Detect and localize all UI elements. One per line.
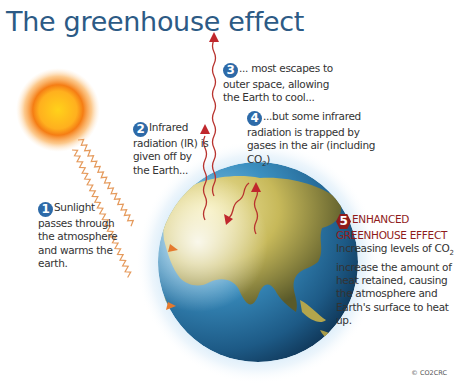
copyright-notice: © CO2CRC [411, 369, 447, 377]
co2-subscript: 2 [449, 249, 453, 257]
callout-5-text-b: increase the amount of heat retained, ca… [336, 261, 452, 326]
callout-4-tail: ) [266, 153, 270, 165]
callout-3-text: ... most escapes to outer space, allowin… [223, 62, 333, 103]
callout-4: 4...but some infrared radiation is trapp… [247, 110, 382, 171]
callout-5-heading-2: GREENHOUSE EFFECT [336, 229, 447, 241]
step-badge-5: 5 [336, 214, 351, 229]
callout-5-heading-1: ENHANCED [352, 213, 409, 225]
callout-5: 5ENHANCED GREENHOUSE EFFECT Increasing l… [336, 213, 454, 327]
sun-icon [16, 68, 100, 152]
callout-2: 2Infrared radiation (IR) is given off by… [133, 121, 211, 177]
callout-5-text-a: Increasing levels of CO [336, 242, 449, 254]
step-badge-4: 4 [247, 111, 262, 126]
step-badge-2: 2 [133, 122, 148, 137]
ir-arrowhead-escape [209, 32, 219, 42]
step-badge-3: 3 [223, 63, 238, 78]
callout-1: 1Sunlight passes through the atmosphere … [38, 201, 118, 270]
step-badge-1: 1 [38, 202, 53, 217]
callout-3: 3... most escapes to outer space, allowi… [223, 62, 343, 105]
diagram-artwork [0, 0, 459, 389]
